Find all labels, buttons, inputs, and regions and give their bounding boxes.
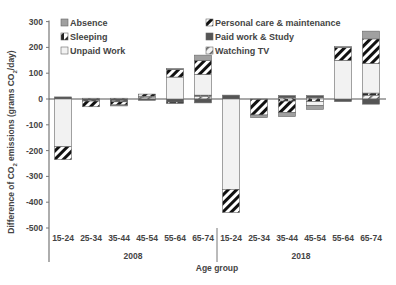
bar-segment-watching-tv [195, 96, 212, 99]
bar-segment-personal-care-maintenance [251, 100, 268, 115]
bar-segment-absence [363, 31, 380, 39]
legend-label: Paid work & Study [215, 32, 294, 42]
bar-segment-sleeping [363, 93, 380, 95]
bar-segment-unpaid-work [195, 74, 212, 95]
bar-2008-25-34 [83, 98, 100, 107]
bar-2008-45-54 [139, 94, 156, 100]
bar-segment-paid-work-study [55, 97, 72, 99]
bar-segment-personal-care-maintenance [335, 47, 352, 60]
y-tick-label: -200 [26, 146, 43, 156]
group-label-2018: 2018 [292, 251, 311, 261]
bar-2008-35-44 [111, 98, 128, 106]
y-axis-title: Difference of CO2 emissions (grams CO2/d… [6, 50, 18, 234]
bar-segment-unpaid-work [223, 99, 240, 189]
x-axis-title: Age group [196, 263, 239, 273]
legend: AbsenceSleepingUnpaid WorkPersonal care … [61, 18, 341, 56]
bar-segment-absence [279, 113, 296, 117]
bars [55, 31, 380, 212]
stacked-bar-chart: 3002001000-100-200-300-400-500 AbsenceSl… [0, 0, 396, 285]
legend-swatch-icon [61, 47, 68, 54]
bar-segment-sleeping [279, 99, 296, 101]
y-tick-label: 100 [29, 68, 43, 78]
legend-label: Sleeping [70, 32, 108, 42]
legend-item-unpaid-work: Unpaid Work [61, 46, 126, 56]
bar-segment-absence [335, 47, 352, 48]
x-tick-label: 65-74 [192, 233, 214, 243]
legend-swatch-icon [206, 19, 213, 26]
x-tick-label: 15-24 [52, 233, 74, 243]
bar-segment-absence [195, 55, 212, 60]
bar-segment-paid-work-study [167, 99, 184, 102]
bar-segment-unpaid-work [363, 63, 380, 93]
x-tick-label: 45-54 [136, 233, 158, 243]
legend-item-personal-care-maintenance: Personal care & maintenance [206, 18, 341, 28]
bar-segment-paid-work-study [195, 99, 212, 103]
bar-segment-personal-care-maintenance [139, 94, 156, 96]
bar-segment-unpaid-work [307, 102, 324, 106]
bar-segment-personal-care-maintenance [223, 189, 240, 212]
bar-2018-55-64 [335, 47, 352, 102]
x-tick-label: 55-64 [164, 233, 186, 243]
bar-segment-paid-work-study [223, 95, 240, 99]
y-tick-label: -500 [26, 223, 43, 233]
bar-2018-45-54 [307, 96, 324, 110]
bar-2018-15-24 [223, 95, 240, 212]
x-tick-label: 65-74 [360, 233, 382, 243]
x-tick-label: 35-44 [108, 233, 130, 243]
bar-segment-absence [167, 69, 184, 70]
bar-2008-55-64 [167, 69, 184, 104]
bar-segment-sleeping [167, 102, 184, 103]
bar-segment-paid-work-study [139, 99, 156, 100]
x-tick-label: 25-34 [80, 233, 102, 243]
bar-segment-paid-work-study [363, 99, 380, 104]
bar-2018-65-74 [363, 31, 380, 104]
bar-segment-personal-care-maintenance [363, 39, 380, 64]
legend-label: Unpaid Work [70, 46, 126, 56]
y-tick-label: 300 [29, 17, 43, 27]
y-tick-label: -400 [26, 197, 43, 207]
legend-item-sleeping: Sleeping [61, 32, 108, 42]
bar-segment-unpaid-work [335, 60, 352, 99]
legend-swatch-icon [61, 19, 68, 26]
x-tick-label: 45-54 [304, 233, 326, 243]
bar-segment-personal-care-maintenance [279, 101, 296, 113]
legend-swatch-icon [206, 47, 213, 54]
y-tick-label: -100 [26, 120, 43, 130]
bar-2008-15-24 [55, 97, 72, 160]
x-tick-label: 25-34 [248, 233, 270, 243]
y-tick-label: 200 [29, 42, 43, 52]
bar-segment-paid-work-study [335, 99, 352, 102]
bar-segment-sleeping [307, 99, 324, 102]
legend-label: Personal care & maintenance [215, 18, 341, 28]
axis-labels: Difference of CO2 emissions (grams CO2/d… [6, 50, 382, 273]
bar-2018-25-34 [251, 99, 268, 118]
bar-segment-personal-care-maintenance [195, 60, 212, 74]
legend-swatch-icon [206, 33, 213, 40]
bar-segment-unpaid-work [55, 99, 72, 147]
bar-segment-unpaid-work [167, 77, 184, 99]
legend-label: Watching TV [215, 46, 269, 56]
legend-item-paid-work-study: Paid work & Study [206, 32, 294, 42]
bar-segment-absence [111, 105, 128, 106]
bar-2008-65-74 [195, 55, 212, 103]
legend-item-watching-tv: Watching TV [206, 46, 269, 56]
y-tick-label: -300 [26, 171, 43, 181]
bar-segment-paid-work-study [279, 96, 296, 98]
x-tick-label: 55-64 [332, 233, 354, 243]
legend-swatch-icon [61, 33, 68, 40]
y-tick-label: 0 [38, 94, 43, 104]
bar-segment-watching-tv [363, 95, 380, 99]
x-tick-label: 15-24 [220, 233, 242, 243]
legend-label: Absence [70, 18, 108, 28]
bar-segment-paid-work-study [307, 96, 324, 98]
bar-segment-personal-care-maintenance [83, 101, 100, 107]
legend-item-absence: Absence [61, 18, 108, 28]
bar-segment-absence [251, 115, 268, 118]
bar-2018-35-44 [279, 96, 296, 117]
bar-segment-personal-care-maintenance [167, 69, 184, 77]
x-tick-label: 35-44 [276, 233, 298, 243]
bar-segment-personal-care-maintenance [111, 102, 128, 105]
group-label-2008: 2008 [124, 251, 143, 261]
bar-segment-personal-care-maintenance [55, 147, 72, 160]
bar-segment-absence [307, 105, 324, 109]
